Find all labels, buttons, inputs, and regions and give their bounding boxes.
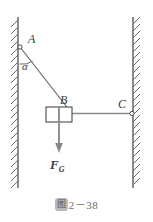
left-wall-hatching — [11, 20, 18, 188]
figure-caption: 图 2－38 — [0, 193, 153, 215]
label-force-fg-main: F — [49, 157, 59, 172]
caption-badge-icon: 图 — [55, 198, 68, 211]
pivot-c — [130, 111, 134, 115]
label-force-fg-subscript: G — [59, 165, 65, 174]
right-wall — [133, 17, 140, 188]
right-wall-hatching — [133, 17, 140, 185]
caption-number: 2－38 — [68, 196, 99, 212]
pivot-a — [18, 45, 22, 49]
left-wall — [11, 17, 18, 188]
label-angle-alpha: α — [22, 60, 28, 72]
label-point-c: C — [118, 97, 127, 111]
label-point-b: B — [60, 93, 68, 107]
physics-figure: A α B C FG 图 2－38 — [0, 0, 153, 222]
label-force-fg: FG — [49, 157, 65, 174]
statics-diagram: A α B C FG — [0, 0, 153, 222]
label-point-a: A — [27, 32, 36, 46]
